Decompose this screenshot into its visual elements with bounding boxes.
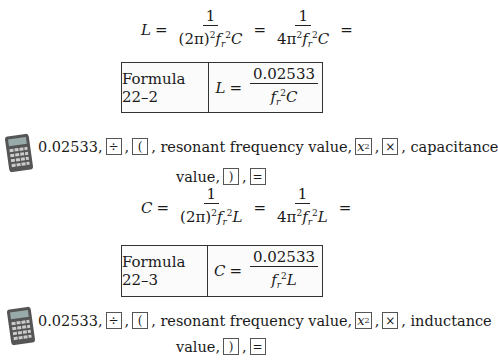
den-var: C [318,30,329,48]
denominator: fr2L [268,267,300,293]
eq-trailing-equals: = [340,21,353,39]
numerator: 1 [203,8,219,26]
numerator: 0.02533 [250,249,318,267]
calculator-icon [6,306,36,346]
den-sub: r [277,280,281,290]
equals-key: = [250,168,266,185]
formula-fraction: 0.02533 fr2C [250,66,318,110]
den-sub: r [308,217,312,227]
close-paren-key: ) [223,338,239,355]
fraction-1: 1 (2π)2fr2C [176,8,246,52]
sep: , [125,139,130,155]
step-value: 0.02533, [38,313,103,329]
multiply-key: × [382,138,398,155]
step-text: value, [176,339,220,355]
denominator: 4π2fr2L [274,204,331,230]
denominator: fr2C [267,84,300,110]
step-text: value, [176,169,220,185]
numerator: 1 [295,186,311,204]
eq-lhs: L [141,21,151,39]
key-x: x [357,313,364,328]
formula-fraction: 0.02533 fr2L [250,249,318,293]
divide-key: ÷ [106,138,122,155]
numerator: 1 [295,8,311,26]
square-key: x2 [355,138,371,155]
formula-label: Formula 22–3 [122,246,208,296]
eq-equals-2: = [253,21,266,39]
formula-lhs: L [215,79,225,97]
calculator-steps-2-line-1: 0.02533, ÷ , ( , resonant frequency valu… [38,312,492,329]
formula-box-22-2: Formula 22–2 L = 0.02533 fr2C [121,62,323,113]
inductance-equation: L = 1 (2π)2fr2C = 1 4π2fr2C = [141,8,357,52]
formula-label: Formula 22–2 [122,63,209,112]
capacitance-equation: C = 1 (2π)2fr2L = 1 4π2fr2L = [141,186,355,230]
step-text: , resonant frequency value, [151,139,352,155]
denominator: 4π2fr2C [274,26,332,52]
den-var: L [233,208,243,226]
step-value: 0.02533, [38,139,103,155]
open-paren-key: ( [132,138,148,155]
open-paren-key: ( [132,312,148,329]
equals-key: = [250,338,266,355]
sep: , [242,169,247,185]
formula-expression: C = 0.02533 fr2L [208,246,322,296]
den-sub: r [308,39,312,49]
denominator: (2π)2fr2L [177,204,245,230]
eq-equals: = [155,21,168,39]
key-exp: 2 [365,316,370,325]
formula-equals: = [229,262,242,280]
square-key: x2 [355,312,371,329]
sep: , [125,313,130,329]
numerator: 1 [204,186,220,204]
step-text: , capacitance [401,139,498,155]
formula-box-22-3: Formula 22–3 C = 0.02533 fr2L [121,245,323,297]
sep: , [375,313,380,329]
calculator-icon [4,133,34,173]
den-term: 4π [277,208,296,226]
sep: , [375,139,380,155]
den-term: (2π) [180,208,211,226]
eq-equals: = [156,199,169,217]
calculator-steps-2-line-2: value, ) , = [176,338,269,355]
den-var: C [231,30,242,48]
sep: , [242,339,247,355]
den-term: 4π [277,30,296,48]
formula-equals: = [229,79,242,97]
calculator-steps-1-line-1: 0.02533, ÷ , ( , resonant frequency valu… [38,138,498,155]
close-paren-key: ) [223,168,239,185]
key-exp: 2 [365,142,370,151]
den-sub: r [276,97,280,107]
den-var: L [287,271,297,289]
eq-lhs: C [141,199,152,217]
divide-key: ÷ [106,312,122,329]
fraction-2: 1 4π2fr2C [274,8,332,52]
calculator-steps-1-line-2: value, ) , = [176,168,269,185]
den-sub: r [221,39,225,49]
den-term: (2π) [179,30,210,48]
fraction-2: 1 4π2fr2L [274,186,331,230]
formula-lhs: C [214,262,225,280]
denominator: (2π)2fr2C [176,26,246,52]
multiply-key: × [382,312,398,329]
eq-equals-2: = [253,199,266,217]
step-text: , resonant frequency value, [151,313,352,329]
formula-expression: L = 0.02533 fr2C [209,63,322,112]
key-x: x [357,139,364,154]
den-sub: r [222,217,226,227]
step-text: , inductance [401,313,491,329]
numerator: 0.02533 [250,66,318,84]
den-var: L [318,208,328,226]
eq-trailing-equals: = [339,199,352,217]
den-var: C [286,88,297,106]
fraction-1: 1 (2π)2fr2L [177,186,245,230]
